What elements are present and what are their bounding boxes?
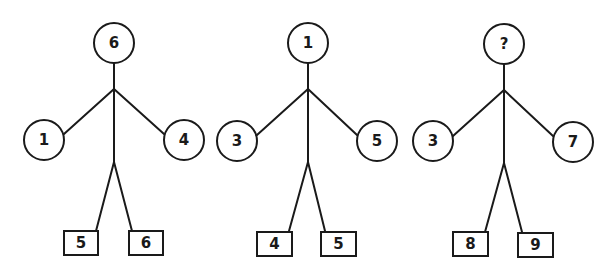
head-value-unknown: ? — [500, 35, 509, 53]
left-hand-value: 3 — [232, 132, 242, 150]
right-arm-line — [504, 90, 553, 136]
right-arm-line — [114, 89, 164, 134]
head-node: ? — [484, 24, 524, 64]
left-leg-line — [289, 162, 308, 231]
left-arm-line — [257, 89, 308, 135]
left-foot-node: 5 — [64, 231, 98, 255]
left-arm-line — [64, 89, 114, 134]
left-leg-line — [485, 163, 504, 232]
left-hand-value: 3 — [428, 132, 438, 150]
right-hand-value: 4 — [179, 131, 189, 149]
left-hand-node: 1 — [24, 120, 64, 160]
right-arm-line — [308, 89, 357, 135]
right-foot-value: 5 — [333, 235, 343, 253]
right-hand-node: 7 — [553, 122, 593, 162]
right-foot-node: 9 — [518, 233, 553, 257]
stick-figure-3: ? 3 7 8 9 — [413, 24, 593, 257]
left-foot-value: 4 — [269, 235, 279, 253]
right-leg-line — [114, 162, 132, 231]
head-node: 1 — [288, 23, 328, 63]
head-node: 6 — [94, 23, 134, 63]
right-foot-value: 9 — [530, 236, 540, 254]
left-foot-value: 5 — [76, 234, 86, 252]
head-value: 6 — [109, 34, 119, 52]
left-hand-node: 3 — [413, 121, 453, 161]
left-foot-node: 4 — [257, 232, 292, 256]
left-hand-node: 3 — [217, 121, 257, 161]
right-hand-value: 7 — [568, 133, 578, 151]
right-hand-value: 5 — [372, 132, 382, 150]
left-foot-node: 8 — [453, 232, 488, 256]
right-foot-node: 6 — [129, 231, 163, 255]
right-leg-line — [504, 163, 522, 232]
left-foot-value: 8 — [465, 235, 475, 253]
right-foot-value: 6 — [141, 234, 151, 252]
stick-figure-2: 1 3 5 4 5 — [217, 23, 397, 256]
head-value: 1 — [303, 34, 313, 52]
right-leg-line — [308, 162, 325, 231]
right-hand-node: 4 — [164, 120, 204, 160]
stick-figure-puzzle: 6 1 4 5 6 — [0, 0, 610, 276]
right-hand-node: 5 — [357, 121, 397, 161]
left-arm-line — [453, 90, 504, 136]
right-foot-node: 5 — [321, 232, 356, 256]
left-hand-value: 1 — [39, 131, 49, 149]
left-leg-line — [96, 162, 114, 231]
stick-figure-1: 6 1 4 5 6 — [24, 23, 204, 255]
puzzle-diagram: 6 1 4 5 6 — [0, 0, 610, 276]
